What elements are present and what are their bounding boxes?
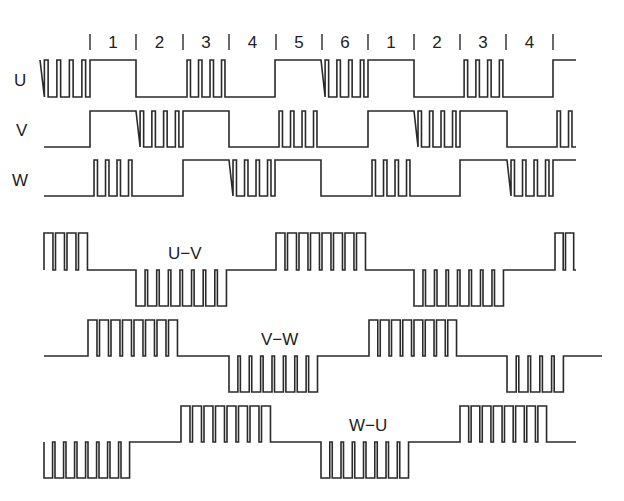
phase-label: W <box>12 171 28 190</box>
sector-label: 3 <box>201 33 210 52</box>
sector-label: 6 <box>340 33 349 52</box>
line-voltage-label: V−W <box>261 330 298 349</box>
phase-trace <box>44 160 576 196</box>
sector-label: 1 <box>386 33 395 52</box>
line-voltage-0-waveform: U−V <box>44 233 576 306</box>
sector-label: 5 <box>294 33 303 52</box>
phase-label: U <box>14 71 26 90</box>
line-voltage-trace <box>44 406 576 478</box>
sector-header: 1234561234 <box>90 33 553 52</box>
sector-label: 4 <box>248 33 257 52</box>
line-voltage-1-waveform: V−W <box>44 320 602 392</box>
sector-label: 3 <box>478 33 487 52</box>
line-voltage-trace <box>44 233 576 306</box>
phase-trace <box>44 111 576 147</box>
sector-label: 1 <box>108 33 117 52</box>
phase-waveforms: UVW <box>12 60 576 196</box>
sector-label: 2 <box>432 33 441 52</box>
phase-w-waveform: W <box>12 160 576 196</box>
sector-label: 4 <box>525 33 534 52</box>
phase-v-waveform: V <box>16 111 576 147</box>
phase-label: V <box>16 121 28 140</box>
sector-label: 2 <box>155 33 164 52</box>
line-voltage-waveforms: U−VV−WW−U <box>44 233 602 478</box>
phase-u-waveform: U <box>14 60 576 97</box>
line-voltage-trace <box>44 320 602 392</box>
line-voltage-label: U−V <box>168 244 202 263</box>
waveform-diagram: 1234561234 UVW U−VV−WW−U <box>0 0 624 501</box>
line-voltage-2-waveform: W−U <box>44 406 576 478</box>
line-voltage-label: W−U <box>349 416 387 435</box>
phase-trace <box>40 60 576 97</box>
